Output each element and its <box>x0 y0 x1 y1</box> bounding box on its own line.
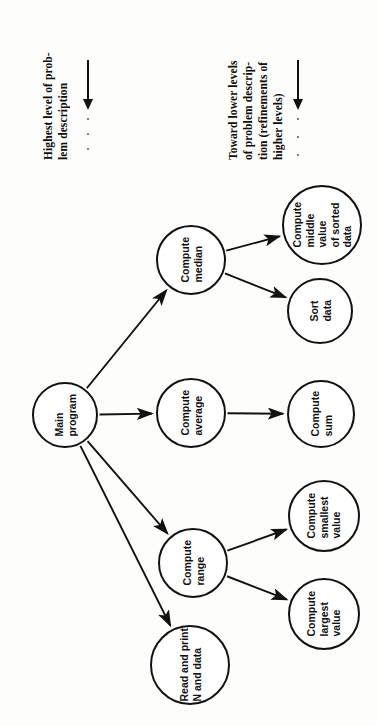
legend-lower-levels-arrow-shaft <box>297 60 299 102</box>
node-compute-sum[interactable]: Compute sum <box>287 380 355 448</box>
node-label: Compute median <box>179 237 204 283</box>
node-label: Compute largest value <box>305 591 343 637</box>
node-label: Compute sum <box>309 391 334 437</box>
node-compute-median[interactable]: Compute median <box>156 225 226 295</box>
node-label: Compute average <box>179 390 204 436</box>
edge-main-program-to-compute-average <box>99 414 152 415</box>
node-label: Main program <box>53 394 78 437</box>
node-label: Read and print N and data <box>178 628 203 702</box>
node-compute-range[interactable]: Compute range <box>158 528 228 598</box>
refinement-diagram: Main programCompute medianCompute averag… <box>0 160 377 726</box>
legend-highest-level-text: Highest level of prob- lem description <box>41 12 71 160</box>
node-label: Compute smallest value <box>305 493 343 539</box>
edge-compute-range-to-compute-largest-value <box>227 576 287 599</box>
node-label: Sort data <box>308 300 333 322</box>
edge-compute-median-to-compute-middle-value <box>226 236 279 250</box>
node-sort-data[interactable]: Sort data <box>287 278 353 344</box>
arrow-down-icon <box>83 99 93 110</box>
edge-main-program-to-read-and-print <box>80 446 170 626</box>
arrow-down-icon <box>293 99 303 110</box>
legend-lower-levels-text: Toward lower levels of problem descrip- … <box>226 12 286 160</box>
node-compute-average[interactable]: Compute average <box>156 378 226 448</box>
edge-main-program-to-compute-median <box>87 290 167 388</box>
node-compute-middle-value[interactable]: Compute middle value of sorted data <box>282 185 362 265</box>
edge-compute-median-to-sort-data <box>225 273 286 297</box>
edge-main-program-to-compute-range <box>88 441 168 533</box>
figure-page: Highest level of prob- lem description T… <box>0 0 377 726</box>
edge-compute-range-to-compute-smallest-value <box>227 530 286 551</box>
node-compute-largest-value[interactable]: Compute largest value <box>288 578 360 650</box>
node-label: Compute range <box>181 540 206 586</box>
node-main-program[interactable]: Main program <box>32 382 98 448</box>
node-compute-smallest-value[interactable]: Compute smallest value <box>288 480 360 552</box>
node-read-and-print[interactable]: Read and print N and data <box>150 625 230 705</box>
legend-highest-level-arrow-shaft <box>87 60 89 102</box>
node-label: Compute middle value of sorted data <box>291 202 354 248</box>
